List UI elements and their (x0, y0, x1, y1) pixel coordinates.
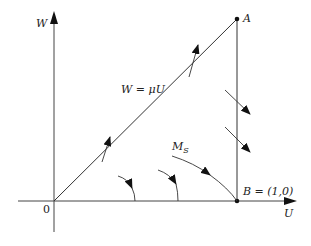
trajectory-diagonal-upper (189, 45, 198, 77)
origin-label: 0 (43, 203, 50, 216)
trajectory-separatrix-ms (172, 156, 210, 175)
trajectory-diagonal-lower (102, 137, 110, 162)
w-axis-label: W (36, 17, 49, 30)
trajectory-arc-small (118, 176, 132, 188)
diagonal-label: W = μU (121, 83, 166, 96)
phase-plane-diagram: W U 0 A B = (1,0) W = μU MS (0, 0, 311, 246)
point-a (235, 17, 240, 22)
point-b-prefix: B = (242, 185, 267, 198)
diagonal-line (54, 19, 237, 201)
point-a-label: A (242, 12, 251, 25)
point-b-coords: (1,0) (267, 185, 293, 198)
separatrix-label: MS (171, 140, 189, 155)
u-axis-arrowhead-icon (284, 197, 297, 205)
trajectory-arc-medium (158, 170, 176, 184)
separatrix-label-main: M (171, 140, 184, 153)
separatrix-label-sub: S (183, 146, 189, 155)
u-axis-label: U (284, 207, 294, 220)
point-b-label: B = (1,0) (242, 185, 293, 198)
w-axis-arrowhead-icon (50, 11, 58, 24)
u-axis (18, 197, 297, 205)
